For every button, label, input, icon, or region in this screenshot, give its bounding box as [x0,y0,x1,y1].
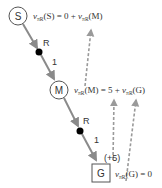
svg-text:G: G [97,168,105,179]
edge-s-to-m: R 1 [23,24,57,79]
equation-m: vπR(M) = 5 + vπR(G) [74,85,145,96]
equation-s: vπR(S) = 0 + vπR(M) [33,11,103,22]
action-label: R [83,116,90,126]
mdp-diagram: R 1 R 1 S M G vπR(S) = 0 + vπR(M) vπR(M)… [0,0,162,188]
probability-label: 1 [52,57,57,67]
backup-arrow-reward-to-m [113,100,114,160]
state-node-m: M [50,81,68,99]
backup-arrow-m-to-s [85,30,91,86]
svg-text:M: M [55,85,63,96]
equation-g: vπR(G) = 0 [115,169,153,180]
action-node-dot [77,128,84,135]
state-node-s: S [9,7,27,25]
edge-m-to-g: R 1 [64,98,99,160]
probability-label: 1 [94,135,99,145]
state-node-g: G [92,164,110,182]
reward-label: (+5) [104,153,120,163]
action-node-dot [36,49,43,56]
svg-text:S: S [15,11,22,22]
action-label: R [43,38,50,48]
